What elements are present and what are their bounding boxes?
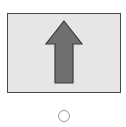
up-arrow-icon <box>0 0 126 127</box>
option-radio-button[interactable] <box>58 110 70 122</box>
answer-option[interactable] <box>0 0 126 127</box>
